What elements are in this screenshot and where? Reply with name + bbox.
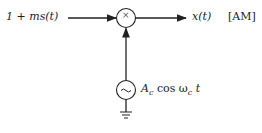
ground-icon [120,112,132,118]
multiplier-symbol: × [122,10,130,20]
carrier-amplitude: A [141,82,149,95]
input-label: 1 + ms(t) [6,10,58,23]
input-label-text: 1 + ms(t) [6,10,58,23]
carrier-amplitude-sub: c [149,88,153,97]
carrier-var: t [196,82,200,95]
carrier-freq-sub: c [188,88,192,97]
carrier-label: Ac cos ωc t [141,82,200,97]
output-label: x(t) [192,10,211,23]
carrier-func: cos ω [157,82,188,95]
output-tag: [AM] [228,10,256,23]
